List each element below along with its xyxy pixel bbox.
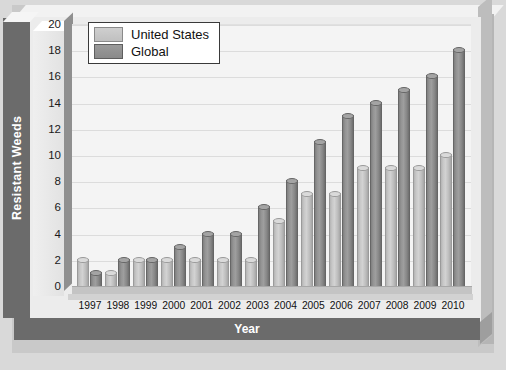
x-axis-title-band: Year xyxy=(14,318,480,340)
x-axis-tick-labels: 1997199819992000200120022003200420052006… xyxy=(72,300,471,316)
bar-united-states xyxy=(357,167,369,287)
legend-label-united-states: United States xyxy=(131,27,209,42)
bar-group xyxy=(299,25,327,287)
y-axis-tick-label: 16 xyxy=(35,70,61,82)
bar-groups xyxy=(72,25,471,287)
x-axis-tick-label: 2000 xyxy=(160,300,188,316)
bar-united-states xyxy=(273,220,285,288)
x-axis-tick-label: 1999 xyxy=(132,300,160,316)
y-axis-tick-label: 10 xyxy=(35,149,61,161)
bar-global xyxy=(370,102,382,287)
legend-swatch-united-states xyxy=(94,27,123,42)
legend-item-global: Global xyxy=(94,44,209,59)
legend-item-united-states: United States xyxy=(94,27,209,42)
bar-group xyxy=(439,25,467,287)
bar-group xyxy=(271,25,299,287)
x-axis-tick-label: 2003 xyxy=(244,300,272,316)
legend-label-global: Global xyxy=(131,44,169,59)
y-axis-tick-label: 2 xyxy=(35,254,61,266)
bar-united-states xyxy=(329,193,341,287)
chart-legend: United States Global xyxy=(88,22,220,64)
bar-united-states xyxy=(301,193,313,287)
x-axis-tick-label: 2002 xyxy=(216,300,244,316)
bar-global xyxy=(314,141,326,287)
y-axis-tick-label: 8 xyxy=(35,175,61,187)
bar-global xyxy=(258,206,270,287)
x-axis-tick-label: 1998 xyxy=(104,300,132,316)
bar-united-states xyxy=(133,259,145,287)
bar-group xyxy=(244,25,272,287)
bar-united-states xyxy=(217,259,229,287)
y-axis-tick-label: 20 xyxy=(35,18,61,30)
bar-group xyxy=(76,25,104,287)
y-axis-tick-label: 14 xyxy=(35,97,61,109)
x-axis-title: Year xyxy=(234,322,259,336)
x-axis-tick-label: 2001 xyxy=(188,300,216,316)
bar-group xyxy=(327,25,355,287)
x-axis-tick-label: 2008 xyxy=(383,300,411,316)
x-axis-tick-label: 1997 xyxy=(76,300,104,316)
y-axis-tick-label: 18 xyxy=(35,44,61,56)
x-axis-tick-label: 2004 xyxy=(271,300,299,316)
bar-group xyxy=(188,25,216,287)
y-axis-tick-label: 12 xyxy=(35,123,61,135)
bar-global xyxy=(230,233,242,287)
bar-united-states xyxy=(105,272,117,287)
bar-group xyxy=(355,25,383,287)
y-axis-tick-strip: 02468101214161820 xyxy=(33,30,64,296)
bar-united-states xyxy=(77,259,89,287)
bar-global xyxy=(118,259,130,287)
bar-global xyxy=(453,49,465,287)
bar-global xyxy=(286,180,298,287)
legend-swatch-global xyxy=(94,44,123,59)
x-axis-tick-label: 2005 xyxy=(299,300,327,316)
bar-group xyxy=(104,25,132,287)
bar-united-states xyxy=(440,154,452,287)
bar-group xyxy=(216,25,244,287)
y-axis-tick-label: 4 xyxy=(35,228,61,240)
x-axis-tick-label: 2006 xyxy=(327,300,355,316)
bar-united-states xyxy=(413,167,425,287)
bar-global xyxy=(146,259,158,287)
bar-united-states xyxy=(245,259,257,287)
y-axis-tick-label: 0 xyxy=(35,280,61,292)
x-axis-tick-label: 2007 xyxy=(355,300,383,316)
x-axis-tick-label: 2010 xyxy=(439,300,467,316)
bar-global xyxy=(426,75,438,287)
bar-global xyxy=(398,89,410,288)
bar-global xyxy=(174,246,186,287)
y-axis-tick-label: 6 xyxy=(35,201,61,213)
bar-united-states xyxy=(385,167,397,287)
x-axis-tick-label: 2009 xyxy=(411,300,439,316)
chart-root: Resistant Weeds 02468101214161820 United… xyxy=(0,0,506,370)
bar-group xyxy=(411,25,439,287)
bar-group xyxy=(383,25,411,287)
bar-global xyxy=(202,233,214,287)
bar-group xyxy=(160,25,188,287)
y-axis-title-band: Resistant Weeds xyxy=(3,18,30,318)
bar-united-states xyxy=(189,259,201,287)
bar-global xyxy=(342,115,354,287)
y-axis-title: Resistant Weeds xyxy=(3,18,30,318)
bar-united-states xyxy=(161,259,173,287)
bar-group xyxy=(132,25,160,287)
bar-global xyxy=(90,272,102,287)
